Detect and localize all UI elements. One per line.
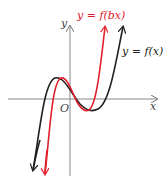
graph-canvas: y x O y = f(bx) y = f(x) [0, 0, 167, 184]
curve-f-x-label: y = f(x) [121, 45, 163, 58]
curve-f-bx-label: y = f(bx) [76, 9, 125, 22]
curve-f-bx [45, 27, 105, 174]
origin-label: O [60, 102, 69, 115]
y-axis-label: y [60, 17, 68, 30]
x-axis-label: x [150, 100, 157, 113]
